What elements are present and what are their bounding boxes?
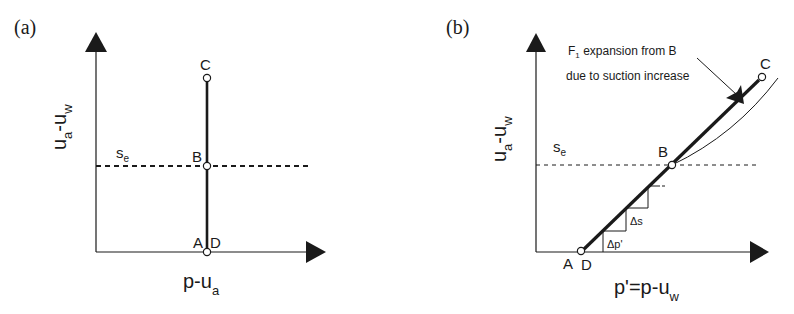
point-c-marker: [758, 73, 765, 80]
delta-p-label: Δp': [607, 238, 623, 250]
point-d-label: D: [581, 256, 592, 273]
point-b-marker: [203, 162, 210, 169]
point-b-marker: [668, 161, 675, 168]
annotation-leader: [697, 58, 737, 95]
x-axis-arrow-icon: [306, 241, 326, 263]
point-a-label: A: [193, 234, 203, 251]
yield-curve: [672, 78, 778, 165]
point-b-label: B: [658, 143, 668, 160]
se-label: se: [553, 138, 567, 158]
panel-b-label: (b): [446, 16, 469, 39]
y-axis-label: ua-uw: [48, 104, 75, 150]
figure: (a) ua-uw p-ua se C B A D (b): [0, 0, 794, 314]
se-label: se: [116, 144, 130, 164]
delta-s-label: Δs: [630, 215, 643, 227]
point-ad-marker: [577, 247, 584, 254]
point-d-label: D: [210, 234, 221, 251]
x-axis-label: p-ua: [183, 270, 220, 298]
point-c-label: C: [200, 56, 211, 73]
annotation-line-2: due to suction increase: [566, 69, 690, 83]
point-c-label: C: [760, 55, 771, 72]
point-a-label: A: [563, 255, 573, 272]
panel-a-label: (a): [14, 16, 36, 39]
point-b-label: B: [192, 148, 202, 165]
y-axis-arrow-icon: [85, 32, 107, 52]
panel-a: (a) ua-uw p-ua se C B A D: [14, 16, 326, 298]
panel-b: (b) ua-uw p'=p-uw se Δs Δp': [446, 16, 778, 304]
annotation-line-1: F1 expansion from B: [568, 44, 677, 60]
x-axis-label: p'=p-uw: [614, 276, 680, 304]
point-c-marker: [203, 74, 210, 81]
y-axis-arrow-icon: [526, 33, 546, 52]
x-axis-arrow-icon: [750, 241, 769, 263]
y-axis-label: ua-uw: [488, 116, 515, 162]
